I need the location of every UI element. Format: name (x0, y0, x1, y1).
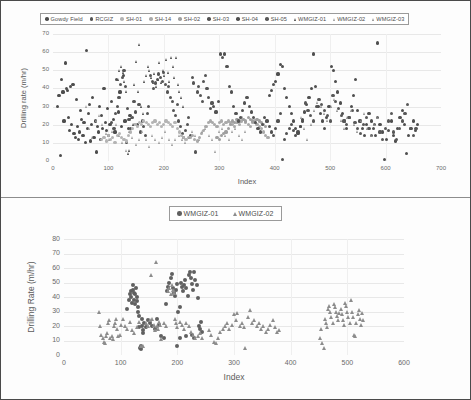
data-point (140, 105, 142, 108)
data-point (383, 158, 386, 161)
legend-circle-icon (236, 17, 240, 21)
data-point (223, 52, 226, 55)
data-point (134, 286, 138, 290)
data-point (186, 294, 190, 298)
data-point (237, 119, 240, 122)
x-tick-label: 200 (149, 165, 179, 171)
data-point (167, 71, 169, 74)
data-point (200, 336, 204, 340)
data-point (113, 321, 117, 325)
data-point (119, 323, 123, 327)
data-point (201, 130, 203, 133)
data-point (105, 132, 107, 135)
data-point (214, 150, 216, 153)
y-tick-label: 40 (29, 84, 49, 90)
data-point (191, 288, 195, 292)
data-point (91, 136, 93, 139)
data-point (146, 324, 150, 328)
data-point (127, 134, 130, 137)
data-point (299, 125, 302, 128)
legend-item-sh-01[interactable]: SH-01 (120, 16, 142, 22)
legend-triangle-icon (294, 18, 296, 21)
data-point (171, 143, 173, 146)
data-point (320, 105, 322, 108)
legend-item-wmgiz-02[interactable]: WMGIZ-02 (233, 210, 274, 217)
legend-item-wmgiz-01[interactable]: WMGIZ-01 (177, 210, 219, 217)
data-point (239, 116, 242, 119)
data-point (376, 41, 379, 44)
legend-item-gowdy-field[interactable]: Gowdy Field (45, 16, 83, 22)
data-point (330, 105, 332, 108)
data-point (96, 125, 99, 128)
legend-item-sh-05[interactable]: SH-05 (265, 16, 287, 22)
data-point (381, 138, 384, 141)
data-point (227, 127, 230, 130)
data-point (178, 336, 182, 340)
data-point (118, 134, 120, 137)
data-point (157, 78, 159, 81)
legend-item-sh-03[interactable]: SH-03 (207, 16, 229, 22)
data-point (407, 134, 410, 137)
data-point (202, 80, 205, 83)
data-point (354, 78, 357, 81)
y-tick-label: 70 (40, 249, 60, 256)
data-point (57, 94, 60, 97)
data-point (315, 105, 318, 108)
data-point (178, 134, 180, 137)
data-point (78, 130, 81, 133)
data-point (135, 143, 137, 146)
bottom-chart-y-axis-title: Drilling Rate (m/hr) (26, 261, 36, 332)
data-point (136, 305, 140, 309)
data-point (132, 100, 135, 103)
data-point (152, 81, 154, 84)
data-point (249, 125, 252, 128)
data-point (321, 119, 324, 122)
data-point (285, 96, 288, 99)
x-tick-label: 0 (49, 359, 79, 366)
gridline-vertical (108, 34, 109, 161)
data-point (153, 72, 155, 75)
data-point (150, 317, 154, 321)
data-point (85, 105, 87, 108)
legend-item-wmgiz-03[interactable]: WMGIZ-03 (372, 16, 404, 22)
data-point (161, 136, 163, 139)
legend-label: SH-03 (213, 16, 229, 22)
data-point (199, 320, 203, 324)
legend-item-sh-04[interactable]: SH-04 (236, 16, 258, 22)
data-point (261, 324, 265, 328)
data-point (136, 310, 140, 314)
x-tick-label: 500 (332, 359, 362, 366)
data-point (164, 324, 168, 328)
data-point (137, 320, 141, 324)
y-tick-label: 20 (40, 322, 60, 329)
data-point (312, 52, 315, 55)
legend-item-rcgiz[interactable]: RCGIZ (90, 16, 114, 22)
data-point (184, 334, 188, 338)
legend-item-sh-14[interactable]: SH-14 (149, 16, 171, 22)
data-point (188, 270, 192, 274)
data-point (326, 119, 328, 122)
data-point (155, 85, 157, 88)
data-point (310, 87, 313, 90)
data-point (169, 276, 173, 280)
data-point (187, 116, 190, 119)
legend-item-wmgiz-02[interactable]: WMGIZ-02 (333, 16, 365, 22)
data-point (116, 105, 119, 108)
y-tick-label: 60 (40, 264, 60, 271)
data-point (182, 105, 184, 108)
data-point (172, 65, 174, 68)
y-tick-label: 60 (29, 48, 49, 54)
data-point (209, 333, 213, 337)
data-point (101, 127, 104, 130)
data-point (257, 321, 261, 325)
y-tick-label: 0 (29, 157, 49, 163)
legend-circle-icon (149, 17, 153, 21)
legend-item-wmgiz-01[interactable]: WMGIZ-01 (294, 16, 326, 22)
data-point (353, 334, 357, 338)
data-point (193, 278, 197, 282)
legend-label: RCGIZ (95, 16, 113, 22)
data-point (118, 333, 122, 337)
data-point (198, 138, 200, 141)
data-point (108, 138, 110, 141)
legend-item-sh-02[interactable]: SH-02 (178, 16, 200, 22)
